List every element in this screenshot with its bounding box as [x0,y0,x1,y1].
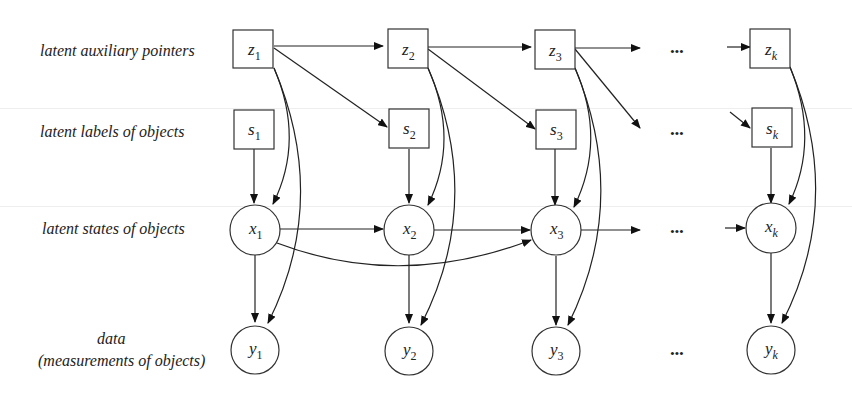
ellipsis-s: ••• [670,126,684,141]
ellipsis-y: ••• [670,346,684,361]
diagram-canvas: z1 z2 z3 zk s1 s2 s3 sk x1 x2 x3 xk y1 y… [0,0,852,393]
graphical-model-diagram: latent auxiliary pointers latent labels … [0,0,852,393]
ellipsis-z: ••• [670,44,684,59]
ellipsis-x: ••• [670,224,684,239]
